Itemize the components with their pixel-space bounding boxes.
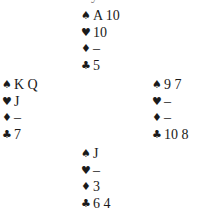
heart-icon: ♥ [81,25,92,42]
diamond-icon: ♦ [2,110,13,127]
north-spades-cards: A 10 [92,8,120,25]
hand-north: ♠ A 10 ♥ 10 ♦ – ♣ 5 [81,8,120,74]
heart-icon: ♥ [152,94,163,111]
diamond-icon: ♦ [81,179,92,196]
east-clubs-cards: 10 8 [163,127,189,144]
diamond-icon: ♦ [152,110,163,127]
east-spades-row: ♠ 9 7 [152,77,189,94]
spade-icon: ♠ [152,77,163,94]
west-spades-row: ♠ K Q [2,77,38,94]
east-clubs-row: ♣ 10 8 [152,127,189,144]
west-hearts-row: ♥ J [2,94,38,111]
south-hearts-row: ♥ – [81,163,111,180]
west-diamonds-cards: – [13,110,21,127]
north-clubs-row: ♣ 5 [81,58,120,75]
club-icon: ♣ [81,196,92,213]
east-spades-cards: 9 7 [163,77,182,94]
east-diamonds-cards: – [163,110,171,127]
west-hearts-cards: J [13,94,19,111]
hand-west: ♠ K Q ♥ J ♦ – ♣ 7 [2,77,38,143]
diamond-icon: ♦ [81,41,92,58]
north-spades-row: ♠ A 10 [81,8,120,25]
west-spades-cards: K Q [13,77,38,94]
north-clubs-cards: 5 [92,58,100,75]
spade-icon: ♠ [81,146,92,163]
west-diamonds-row: ♦ – [2,110,38,127]
west-clubs-row: ♣ 7 [2,127,38,144]
club-icon: ♣ [2,127,13,144]
spade-icon: ♠ [2,77,13,94]
heart-icon: ♥ [81,163,92,180]
club-icon: ♣ [152,127,163,144]
club-icon: ♣ [81,58,92,75]
north-diamonds-cards: – [92,41,100,58]
south-diamonds-row: ♦ 3 [81,179,111,196]
south-spades-cards: J [92,146,98,163]
hand-east: ♠ 9 7 ♥ – ♦ – ♣ 10 8 [152,77,189,143]
south-hearts-cards: – [92,163,100,180]
south-diamonds-cards: 3 [92,179,100,196]
east-diamonds-row: ♦ – [152,110,189,127]
spade-icon: ♠ [81,8,92,25]
west-clubs-cards: 7 [13,127,21,144]
south-clubs-row: ♣ 6 4 [81,196,111,213]
hand-south: ♠ J ♥ – ♦ 3 ♣ 6 4 [81,146,111,212]
north-diamonds-row: ♦ – [81,41,120,58]
south-clubs-cards: 6 4 [92,196,111,213]
east-hearts-row: ♥ – [152,94,189,111]
north-hearts-cards: 10 [92,25,107,42]
north-hearts-row: ♥ 10 [81,25,120,42]
cut-off-text: y [91,0,98,4]
east-hearts-cards: – [163,94,171,111]
heart-icon: ♥ [2,94,13,111]
south-spades-row: ♠ J [81,146,111,163]
